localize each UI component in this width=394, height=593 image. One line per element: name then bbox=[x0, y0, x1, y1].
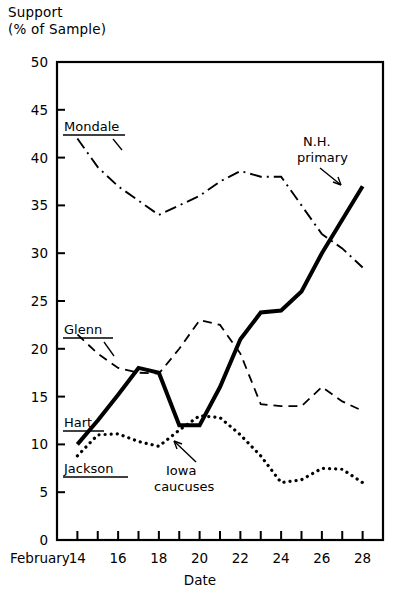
series-label-mondale: Mondale bbox=[63, 119, 125, 150]
y-axis-tick-labels: 05101520253035404550 bbox=[31, 54, 48, 548]
y-tick-label: 35 bbox=[31, 197, 48, 213]
annotation-iowa-line2: caucuses bbox=[154, 479, 215, 494]
annotation-nh-primary-line2: primary bbox=[297, 150, 348, 165]
y-tick-label: 45 bbox=[31, 102, 48, 118]
y-tick-label: 5 bbox=[39, 484, 48, 500]
x-axis-prefix-label: February bbox=[10, 550, 70, 566]
y-tick-label: 40 bbox=[31, 150, 48, 166]
y-tick-label: 50 bbox=[31, 54, 48, 70]
series-label-jackson: Jackson bbox=[63, 461, 128, 477]
series-label-glenn-text: Glenn bbox=[64, 322, 102, 337]
x-tick-label: 28 bbox=[354, 550, 371, 566]
x-axis-tick-labels: 1416182022242628 bbox=[69, 550, 371, 566]
y-tick-label: 25 bbox=[31, 293, 48, 309]
annotation-nh-primary-line1: N.H. bbox=[303, 134, 331, 149]
series-line-glenn bbox=[77, 320, 362, 411]
x-tick-label: 18 bbox=[150, 550, 167, 566]
y-tick-label: 10 bbox=[31, 436, 48, 452]
series-label-mondale-text: Mondale bbox=[64, 119, 119, 134]
x-axis-ticks bbox=[77, 531, 362, 540]
series-label-hart-text: Hart bbox=[64, 415, 92, 430]
y-tick-label: 0 bbox=[39, 532, 48, 548]
chart-root: Support (% of Sample) 051015202530354045… bbox=[0, 0, 394, 593]
x-tick-label: 14 bbox=[69, 550, 86, 566]
series-label-jackson-text: Jackson bbox=[63, 461, 113, 476]
annotation-iowa-line1: Iowa bbox=[166, 463, 196, 478]
y-tick-label: 15 bbox=[31, 389, 48, 405]
series-label-glenn: Glenn bbox=[63, 322, 114, 356]
annotation-iowa-caucuses: Iowa caucuses bbox=[154, 441, 215, 494]
series-line-hart bbox=[77, 186, 362, 444]
y-tick-label: 20 bbox=[31, 341, 48, 357]
x-tick-label: 22 bbox=[232, 550, 249, 566]
x-tick-label: 16 bbox=[110, 550, 127, 566]
series-line-jackson bbox=[77, 416, 362, 483]
x-tick-label: 20 bbox=[191, 550, 208, 566]
x-axis-title: Date bbox=[184, 572, 216, 588]
series-lines bbox=[77, 138, 362, 482]
x-tick-label: 24 bbox=[273, 550, 290, 566]
y-tick-label: 30 bbox=[31, 245, 48, 261]
annotation-nh-primary: N.H. primary bbox=[297, 134, 348, 185]
x-tick-label: 26 bbox=[313, 550, 330, 566]
support-line-chart: 05101520253035404550 1416182022242628 Fe… bbox=[0, 0, 394, 593]
